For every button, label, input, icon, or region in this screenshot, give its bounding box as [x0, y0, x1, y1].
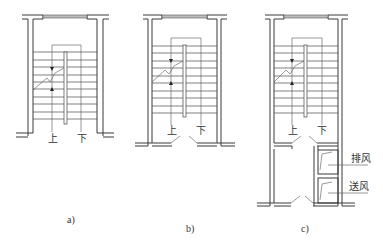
bottom-left-wall [135, 143, 152, 146]
panel-a: 上 下 a) [16, 15, 114, 226]
window [162, 15, 207, 18]
partition-left [274, 143, 292, 149]
break-line [152, 61, 183, 82]
shaft-wall [314, 146, 318, 206]
bottom-right-wall [97, 133, 114, 137]
bottom-left-wall [16, 133, 33, 137]
double-door[interactable] [171, 136, 197, 143]
bottom-left-wall [257, 203, 274, 206]
down-label: 下 [317, 125, 327, 136]
down-label: 下 [196, 125, 206, 136]
door-left-jamb [152, 143, 172, 146]
window [43, 15, 87, 18]
door-left-jamb [274, 203, 291, 206]
supply-label: 送风 [349, 180, 369, 192]
down-label: 下 [77, 133, 87, 144]
partition-right [317, 143, 338, 146]
caption-c: c) [301, 223, 309, 235]
panel-c: 排风 送风 上 下 c) [257, 15, 371, 235]
caption-b: b) [186, 223, 194, 235]
break-line [274, 61, 304, 82]
handrail [64, 52, 67, 124]
stairwell-diagrams: 上 下 a) 上 [0, 0, 383, 246]
exhaust-label: 排风 [351, 152, 371, 164]
inner-double-door[interactable] [292, 136, 317, 143]
caption-a: a) [67, 214, 75, 226]
bottom-right-wall [217, 143, 235, 146]
outer-double-door[interactable] [291, 196, 313, 203]
door-right-jamb [197, 143, 217, 146]
up-label: 上 [48, 133, 58, 144]
break-line [33, 68, 64, 90]
up-label: 上 [167, 125, 177, 136]
up-label: 上 [288, 125, 298, 136]
handrail [183, 45, 186, 117]
bottom-right-wall [313, 203, 355, 206]
handrail [304, 45, 307, 117]
panel-b: 上 下 b) [135, 15, 235, 235]
window [284, 15, 328, 18]
